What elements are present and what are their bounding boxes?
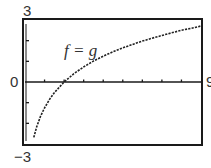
y-max-label: 3 — [23, 3, 31, 18]
y-min-label: −3 — [14, 149, 31, 164]
x-max-label: 9 — [206, 74, 211, 89]
curve-annotation: f = g — [64, 41, 97, 60]
chart-plot: f = g — [0, 0, 211, 168]
y-zero-label: 0 — [10, 74, 18, 89]
